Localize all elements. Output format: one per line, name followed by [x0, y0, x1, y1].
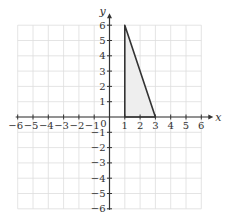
x-tick-label: −2: [70, 120, 85, 131]
axes: [16, 13, 214, 210]
x-tick-label: 1: [122, 120, 128, 131]
y-tick-label: −2: [91, 142, 106, 153]
x-tick-label: −5: [24, 120, 39, 131]
y-tick-label: 3: [99, 66, 105, 77]
y-axis-arrow-icon: [107, 13, 112, 18]
y-tick-label: 5: [99, 35, 105, 46]
x-axis-label: x: [215, 111, 222, 124]
y-tick-label: 6: [99, 20, 105, 31]
coordinate-plane: −6−5−4−3−2−1123456−6−5−4−3−2−1123456 x y…: [0, 0, 225, 218]
x-tick-label: 2: [137, 120, 143, 131]
x-axis-arrow-icon: [208, 115, 213, 120]
x-tick-label: −4: [39, 120, 54, 131]
x-tick-label: 3: [152, 120, 158, 131]
y-tick-label: −6: [91, 203, 106, 214]
y-axis-label: y: [99, 5, 107, 18]
x-tick-label: 6: [198, 120, 204, 131]
origin-label: 0: [100, 118, 106, 129]
x-tick-label: −3: [54, 120, 69, 131]
y-tick-label: 2: [99, 81, 105, 92]
x-tick-label: 5: [183, 120, 189, 131]
y-tick-label: −5: [91, 188, 106, 199]
x-tick-label: −6: [8, 120, 23, 131]
y-tick-label: −3: [91, 157, 106, 168]
y-tick-label: −4: [91, 173, 106, 184]
x-tick-label: 4: [168, 120, 174, 131]
y-tick-label: 4: [99, 50, 105, 61]
y-tick-label: 1: [99, 96, 105, 107]
